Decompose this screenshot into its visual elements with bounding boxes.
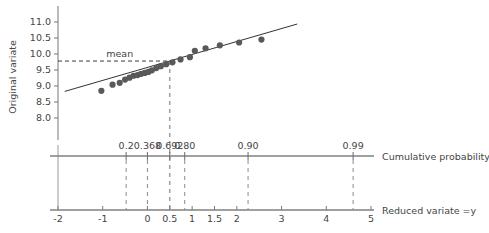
data-point <box>169 59 175 65</box>
cumulative-probability-tick-label: 0.2 <box>119 140 134 151</box>
data-point <box>187 54 193 60</box>
y-axis-tick-label: 9.5 <box>36 64 51 75</box>
data-point <box>158 63 164 69</box>
x-axis-tick-label: -1 <box>98 213 107 224</box>
data-point <box>236 39 242 45</box>
y-axis-tick-label: 8.5 <box>36 96 51 107</box>
data-point <box>117 80 123 86</box>
data-point <box>258 37 264 43</box>
y-axis-tick-label: 9.0 <box>36 80 51 91</box>
data-point <box>177 56 183 62</box>
y-axis-tick-label: 11.0 <box>30 16 51 27</box>
data-point <box>109 82 115 88</box>
x-axis-tick-label: -2 <box>53 213 62 224</box>
y-axis-tick-label: 8.0 <box>36 112 51 123</box>
x-axis-tick-label: 1.5 <box>207 213 222 224</box>
x-axis-tick-label: 0.5 <box>162 213 177 224</box>
data-point <box>98 88 104 94</box>
x-axis-tick-label: 4 <box>323 213 329 224</box>
reduced-variate-axis-title: Reduced variate =y <box>382 205 477 216</box>
mean-label: mean <box>106 48 133 59</box>
x-axis-tick-label: 5 <box>368 213 374 224</box>
data-point <box>163 61 169 67</box>
chart-figure: 8.08.59.09.510.010.511.0Original variate… <box>0 0 489 233</box>
x-axis-tick-label: 1 <box>189 213 195 224</box>
data-point <box>192 48 198 54</box>
data-point <box>202 45 208 51</box>
y-axis-tick-label: 10.0 <box>30 48 51 59</box>
x-axis-tick-label: 3 <box>279 213 285 224</box>
probability-plot-svg: 8.08.59.09.510.010.511.0Original variate… <box>0 0 489 233</box>
cumulative-probability-axis-title: Cumulative probability <box>382 151 489 162</box>
y-axis-tick-label: 10.5 <box>30 32 51 43</box>
x-axis-tick-label: 2 <box>234 213 240 224</box>
x-axis-tick-label: 0 <box>144 213 150 224</box>
y-axis-title: Original variate <box>7 40 18 114</box>
data-point <box>217 42 223 48</box>
